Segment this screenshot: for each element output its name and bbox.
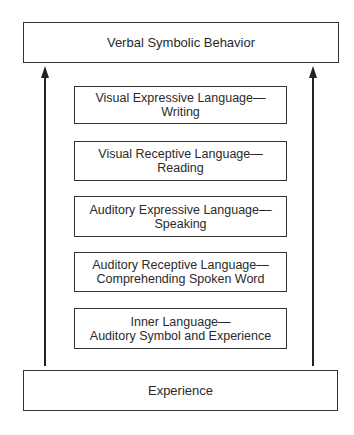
level-line1: Inner Language— bbox=[130, 315, 230, 329]
level-line2: Speaking bbox=[154, 217, 206, 231]
top-box-label: Verbal Symbolic Behavior bbox=[107, 35, 255, 50]
top-box-verbal-symbolic-behavior: Verbal Symbolic Behavior bbox=[23, 22, 339, 63]
level-visual-receptive: Visual Receptive Language— Reading bbox=[74, 141, 287, 181]
level-auditory-expressive: Auditory Expressive Language— Speaking bbox=[74, 196, 287, 237]
level-line2: Comprehending Spoken Word bbox=[97, 272, 265, 286]
level-visual-expressive: Visual Expressive Language— Writing bbox=[74, 86, 287, 124]
level-line1: Visual Expressive Language— bbox=[95, 91, 265, 105]
level-inner-language: Inner Language— Auditory Symbol and Expe… bbox=[74, 308, 287, 349]
level-line1: Auditory Receptive Language— bbox=[92, 258, 269, 272]
level-line1: Auditory Expressive Language— bbox=[89, 203, 271, 217]
level-line1: Visual Receptive Language— bbox=[98, 147, 262, 161]
level-line2: Reading bbox=[157, 161, 204, 175]
level-line2: Auditory Symbol and Experience bbox=[90, 329, 271, 343]
bottom-box-label: Experience bbox=[148, 383, 213, 398]
right-arrow-line bbox=[312, 76, 314, 366]
left-arrow-line bbox=[44, 76, 46, 366]
level-line2: Writing bbox=[161, 105, 200, 119]
level-auditory-receptive: Auditory Receptive Language— Comprehendi… bbox=[74, 252, 287, 292]
bottom-box-experience: Experience bbox=[23, 370, 338, 411]
